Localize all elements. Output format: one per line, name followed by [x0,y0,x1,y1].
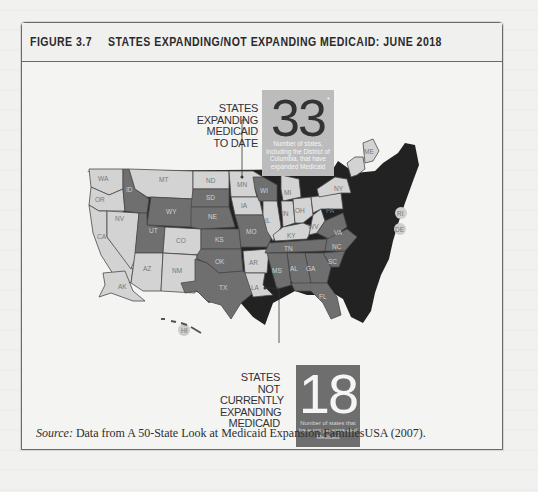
expanding-label-line: MEDICAID [194,126,258,138]
svg-text:MT: MT [159,176,168,183]
svg-text:NY: NY [334,185,344,192]
svg-text:AR: AR [249,259,258,266]
svg-text:ND: ND [206,177,216,184]
expanding-label: STATES EXPANDING MEDICAID TO DATE [194,103,258,149]
svg-text:OR: OR [95,196,105,203]
source-prefix: Source: [36,426,73,440]
svg-text:IL: IL [265,217,271,224]
svg-text:PA: PA [326,207,335,214]
svg-text:WI: WI [260,187,268,194]
svg-text:LA: LA [251,284,260,291]
svg-text:KY: KY [287,232,296,239]
figure-title: STATES EXPANDING/NOT EXPANDING MEDICAID:… [108,34,442,49]
not-expanding-count: 18 [296,361,360,426]
svg-text:UT: UT [149,227,158,234]
svg-text:CA: CA [97,233,107,240]
svg-text:MS: MS [272,267,282,274]
figure-header: FIGURE 3.7 STATES EXPANDING/NOT EXPANDIN… [22,23,502,62]
not-expanding-label-line: CURRENTLY [220,395,280,407]
svg-text:IA: IA [241,202,248,209]
svg-text:NV: NV [115,215,125,222]
svg-text:NC: NC [332,243,342,250]
svg-text:HI: HI [181,327,188,334]
source-text: Data from A 50-State Look at Medicaid Ex… [73,426,426,440]
figure-box: FIGURE 3.7 STATES EXPANDING/NOT EXPANDIN… [21,22,503,450]
svg-text:SC: SC [328,258,337,265]
svg-text:RI: RI [397,210,404,217]
svg-text:OK: OK [215,258,225,265]
svg-text:NE: NE [208,213,218,220]
svg-text:IN: IN [282,210,289,217]
source-note: Source: Data from A 50-State Look at Med… [36,426,426,441]
state-mi [281,175,301,201]
svg-text:MN: MN [237,181,247,188]
svg-text:FL: FL [319,293,327,300]
svg-text:VA: VA [334,229,343,236]
expanding-label-line: STATES [194,103,258,115]
svg-text:AZ: AZ [143,265,151,272]
asterisk-mark: * [327,96,330,103]
svg-text:AL: AL [290,265,298,272]
svg-text:TN: TN [284,245,293,252]
svg-text:CO: CO [176,237,186,244]
svg-text:WA: WA [98,175,109,182]
svg-text:WV: WV [308,223,319,230]
svg-text:AK: AK [118,283,127,290]
svg-text:GA: GA [306,265,316,272]
svg-text:NM: NM [172,267,182,274]
expanding-description: Number of states, including the District… [264,140,332,170]
figure-number: FIGURE 3.7 [30,34,92,49]
expanding-count-box: 33 * Number of states, including the Dis… [262,90,334,176]
svg-text:MO: MO [246,228,256,235]
svg-text:DE: DE [395,226,405,233]
svg-text:KS: KS [215,236,224,243]
svg-text:TX: TX [219,284,228,291]
svg-text:ME: ME [364,148,374,155]
svg-text:MI: MI [284,189,291,196]
not-expanding-label: STATES NOT CURRENTLY EXPANDING MEDICAID [220,372,280,430]
expanding-label-line: TO DATE [194,138,258,150]
not-expanding-label-line: STATES [220,372,280,384]
state-az [131,253,163,291]
svg-text:OH: OH [295,207,305,214]
expanding-count: 33 [262,88,334,148]
svg-text:SD: SD [206,194,215,201]
svg-text:ID: ID [126,186,133,193]
svg-text:WY: WY [166,208,177,215]
